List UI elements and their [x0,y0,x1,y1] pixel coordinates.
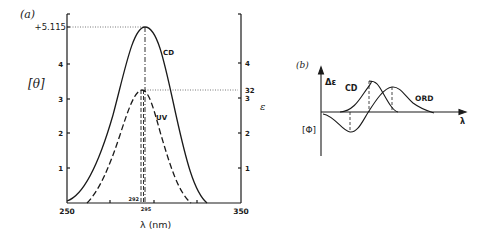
right-tick-1: 1 [245,165,250,173]
right-y-label: ε [260,101,265,112]
panel-b-ord-label: ORD [415,94,433,103]
x-annot-292: 292 [129,196,140,202]
figure: (a) 1 2 3 4 +5.115 [θ] 1 [0,0,484,241]
x-axis-label: λ (nm) [140,219,171,230]
panel-a-label: (a) [20,8,35,21]
left-tick-max: +5.115 [35,22,66,32]
left-y-label: [θ] [28,77,45,91]
panel-b-label: (b) [296,60,309,70]
uv-curve-label: UV [156,114,168,122]
x-annot-295: 295 [141,206,152,212]
panel-b-phi-label: [Φ] [302,125,316,135]
right-tick-2: 2 [245,130,250,138]
right-tick-4: 4 [245,60,250,68]
panel-b-cd-label: CD [345,84,358,93]
left-tick-1: 1 [58,165,63,173]
panel-b-delta-eps-label: Δε [325,77,337,87]
left-tick-3: 3 [58,96,63,104]
right-y-axis [238,14,241,203]
left-y-axis [67,14,70,203]
x-tick-250: 250 [59,207,75,216]
left-tick-2: 2 [58,130,63,138]
cd-curve-label: CD [163,49,174,57]
panel-b-lambda-label: λ [460,117,465,126]
x-tick-350: 350 [233,207,249,216]
right-tick-3: 3 [245,95,250,103]
cd-curve [67,27,207,203]
x-axis [67,200,241,203]
left-tick-4: 4 [58,61,63,69]
right-tick-32: 32 [245,87,255,95]
